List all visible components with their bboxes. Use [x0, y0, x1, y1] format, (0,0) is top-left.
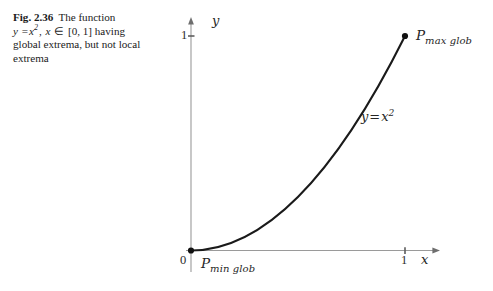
curve-label-x: x — [381, 109, 388, 124]
figure-page: Fig. 2.36The function y =x2, x ∈ [0, 1] … — [0, 0, 493, 291]
y-axis-arrow-icon — [188, 17, 194, 25]
annotation-p-max-glob: Pmax glob — [416, 27, 472, 43]
point-marker-min-glob — [188, 247, 194, 253]
curve-label-equals: = — [368, 109, 381, 124]
annotation-p-max-letter: P — [416, 27, 425, 43]
point-marker-max-glob — [402, 33, 408, 39]
function-plot — [0, 0, 493, 291]
annotation-p-min-letter: P — [201, 255, 210, 271]
origin-label: 0 — [180, 253, 186, 268]
y-axis-tick-label-1: 1 — [181, 28, 187, 43]
annotation-p-min-glob: Pmin glob — [201, 255, 255, 271]
y-axis-label: y — [212, 13, 219, 28]
curve-y-equals-x-squared — [191, 36, 405, 251]
x-axis-label: x — [421, 252, 428, 267]
annotation-p-min-subscript: min glob — [210, 263, 255, 274]
curve-equation-label: y=x2 — [361, 109, 394, 124]
curve-label-exponent: 2 — [389, 108, 395, 118]
x-axis-arrow-icon — [432, 248, 440, 254]
annotation-p-max-subscript: max glob — [425, 35, 472, 46]
x-axis-tick-label-1: 1 — [401, 253, 407, 268]
